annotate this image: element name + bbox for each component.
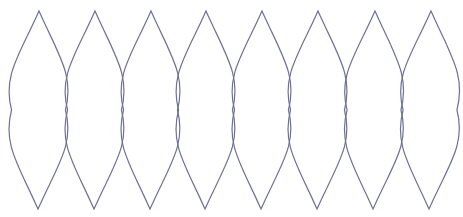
lens-shape: [288, 11, 347, 209]
lens-shape: [232, 11, 291, 209]
lens-shape: [65, 11, 124, 209]
lens-shape: [176, 11, 235, 209]
lens-shape: [344, 11, 403, 209]
lens-shape: [121, 11, 180, 209]
lens-diagram: [0, 0, 463, 217]
lens-shape: [9, 11, 68, 209]
lens-shape: [400, 11, 459, 209]
